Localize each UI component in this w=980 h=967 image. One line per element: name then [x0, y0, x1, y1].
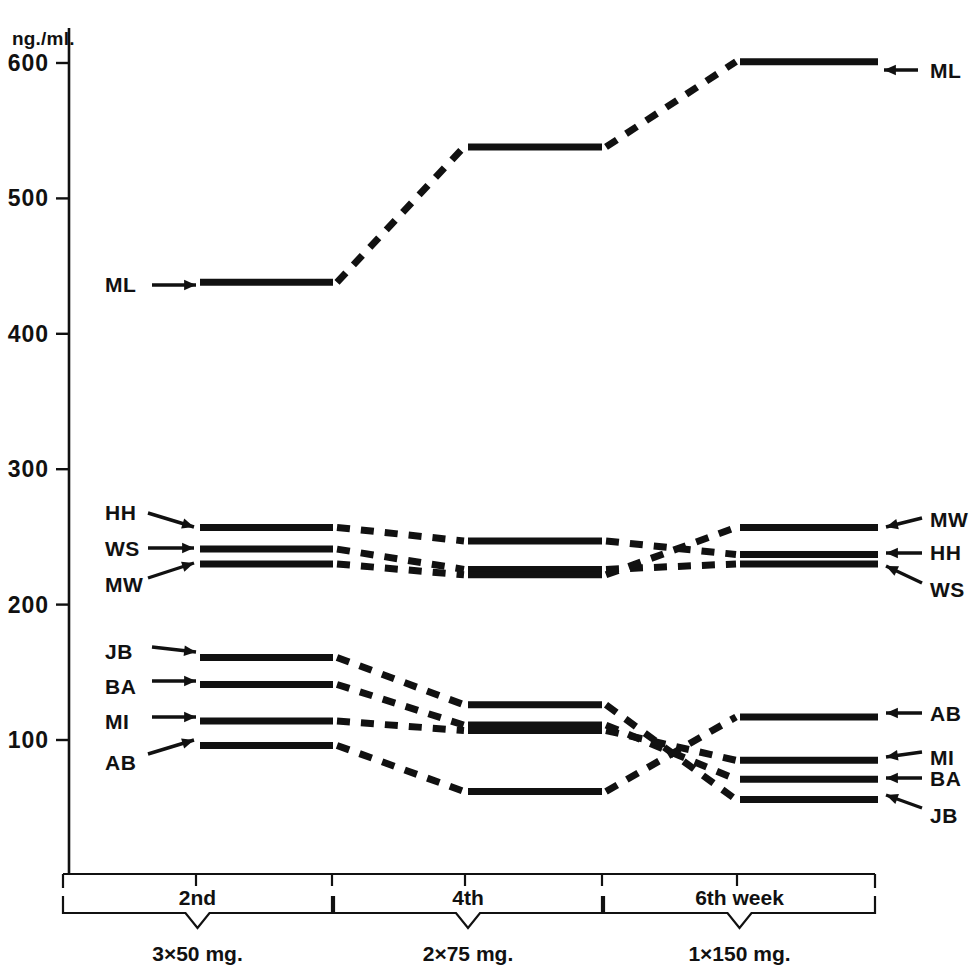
- transition-MI-t0: [337, 721, 464, 730]
- y-tick-label-200: 200: [8, 592, 49, 618]
- right-label-MW: MW: [930, 508, 968, 531]
- right-arrow-AB: [886, 708, 922, 719]
- transition-ML-t0: [337, 147, 464, 282]
- y-tick-label-100: 100: [8, 727, 49, 753]
- left-arrow-JB: [152, 645, 196, 656]
- transition-JB-t0: [337, 657, 464, 704]
- arrow-head: [181, 518, 194, 528]
- left-arrow-WS: [148, 543, 194, 554]
- transition-WS-t0: [337, 549, 464, 569]
- right-arrow-WS: [886, 566, 922, 583]
- period-label-1: 4th: [452, 886, 484, 909]
- right-arrow-ML: [884, 65, 918, 76]
- arrow-head: [182, 543, 194, 554]
- arrow-head: [184, 712, 196, 723]
- left-arrow-MI: [152, 712, 196, 723]
- y-tick-label-500: 500: [8, 185, 49, 211]
- left-label-MW: MW: [105, 573, 143, 596]
- transition-HH-t1: [606, 541, 736, 555]
- left-label-MI: MI: [105, 710, 129, 733]
- transition-AB-t0: [337, 745, 464, 791]
- transition-MW-t0: [337, 564, 464, 575]
- right-arrow-JB: [886, 794, 922, 808]
- arrow-head: [884, 65, 896, 76]
- transition-WS-t1: [606, 564, 736, 569]
- y-tick-label-600: 600: [8, 50, 49, 76]
- arrow-head: [181, 562, 194, 572]
- transition-ML-t1: [606, 62, 736, 147]
- plasma-level-chart: 100200300400500600ng./ml.2nd3×50 mg.4th2…: [0, 0, 980, 967]
- right-arrow-MW: [886, 518, 922, 529]
- arrow-head: [886, 773, 898, 784]
- right-label-AB: AB: [930, 702, 961, 725]
- arrow-head: [886, 708, 898, 719]
- dose-label-1: 2×75 mg.: [423, 942, 513, 965]
- right-arrow-MI: [886, 750, 922, 761]
- dose-label-0: 3×50 mg.: [152, 942, 242, 965]
- y-tick-label-300: 300: [8, 456, 49, 482]
- left-arrow-HH: [148, 513, 194, 529]
- left-label-WS: WS: [105, 537, 140, 560]
- y-tick-label-400: 400: [8, 321, 49, 347]
- period-label-2: 6th week: [695, 886, 784, 909]
- period-label-0: 2nd: [179, 886, 216, 909]
- left-label-AB: AB: [105, 751, 136, 774]
- right-label-ML: ML: [930, 59, 961, 82]
- arrow-head: [184, 280, 196, 291]
- left-arrow-MW: [148, 562, 194, 578]
- left-arrow-ML: [152, 280, 196, 291]
- arrow-head: [184, 676, 196, 687]
- transition-MW-t1: [606, 527, 736, 574]
- arrow-head: [886, 794, 899, 804]
- left-arrow-BA: [152, 676, 196, 687]
- right-arrow-BA: [886, 773, 922, 784]
- dose-label-2: 1×150 mg.: [688, 942, 790, 965]
- left-label-JB: JB: [105, 640, 133, 663]
- left-label-BA: BA: [105, 675, 136, 698]
- series-ML: [200, 62, 878, 283]
- arrow-head: [181, 738, 194, 748]
- right-label-WS: WS: [930, 578, 965, 601]
- transition-BA-t0: [337, 684, 464, 725]
- right-label-JB: JB: [930, 804, 958, 827]
- right-label-BA: BA: [930, 767, 961, 790]
- right-label-HH: HH: [930, 541, 961, 564]
- left-arrow-AB: [148, 738, 194, 754]
- right-label-MI: MI: [930, 746, 954, 769]
- right-arrow-HH: [886, 548, 922, 559]
- transition-AB-t1: [606, 717, 736, 791]
- arrow-head: [886, 548, 898, 559]
- series-layer: [200, 62, 878, 800]
- y-axis-unit-label: ng./ml.: [12, 28, 75, 49]
- left-label-ML: ML: [105, 273, 136, 296]
- left-label-HH: HH: [105, 501, 136, 524]
- transition-HH-t0: [337, 527, 464, 541]
